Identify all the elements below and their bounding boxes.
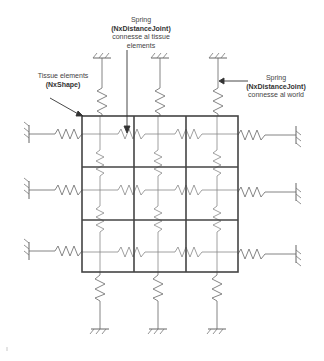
- left-world-springs: [29, 129, 82, 256]
- internal-vertical-springs: [96, 116, 221, 272]
- top-world-springs: [97, 58, 223, 116]
- label-line: connesse al world: [238, 91, 314, 100]
- label-line: Spring: [238, 74, 314, 83]
- ground-icon: [209, 53, 227, 58]
- label-line: connesse al tissue: [104, 33, 178, 42]
- ground-icon: [207, 329, 226, 334]
- spring-mesh-diagram: [0, 0, 324, 361]
- label-line: (NxShape): [30, 81, 96, 90]
- ground-icon: [296, 245, 301, 266]
- label-line: Spring: [104, 16, 178, 25]
- label-line: Tissue elements: [30, 72, 96, 81]
- ground-icon: [296, 126, 301, 147]
- spring-top-1: [97, 58, 107, 116]
- tissue-grid: [82, 116, 238, 272]
- ground-icon: [24, 178, 29, 199]
- ground-icon: [296, 183, 301, 204]
- right-world-springs: [238, 130, 296, 259]
- left-callout-label: Tissue elements (NxShape): [30, 72, 96, 89]
- ground-icon: [90, 329, 109, 334]
- spring-top-3: [213, 58, 223, 116]
- bottom-world-springs: [95, 272, 222, 329]
- internal-horizontal-springs: [82, 129, 238, 257]
- ground-icon: [24, 122, 29, 143]
- ground-icon: [93, 53, 111, 58]
- top-callout-label: Spring (NxDistanceJoint) connesse al tis…: [104, 16, 178, 50]
- label-line: (NxDistanceJoint): [104, 25, 178, 34]
- ground-icon: [151, 53, 169, 58]
- label-line: (NxDistanceJoint): [238, 83, 314, 92]
- spring-top-2: [155, 58, 165, 116]
- right-callout-label: Spring (NxDistanceJoint) connesse al wor…: [238, 74, 314, 100]
- label-line: elements: [104, 42, 178, 51]
- ground-icon: [148, 329, 167, 334]
- ground-icon: [24, 239, 29, 260]
